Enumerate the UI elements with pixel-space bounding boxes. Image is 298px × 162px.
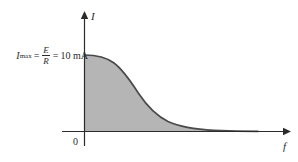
e-over-r-fraction: E R <box>42 46 50 66</box>
x-axis-arrowhead <box>283 128 291 135</box>
x-axis-label: f <box>283 140 288 152</box>
imax-subscript: max <box>20 53 32 60</box>
imax-value: 10 mA <box>61 51 89 61</box>
fraction-numerator-e: E <box>42 46 50 55</box>
curve-fill <box>85 55 259 132</box>
origin-label: 0 <box>73 136 78 147</box>
equals-sign-1: = <box>34 51 40 61</box>
imax-annotation: Imax = E R = 10 mA <box>12 46 88 66</box>
filter-response-figure: I f 0 <box>0 0 298 162</box>
fraction-denominator-r: R <box>42 57 50 66</box>
equals-sign-2: = <box>53 51 59 61</box>
y-axis-label: I <box>90 10 96 22</box>
y-axis-arrowhead <box>81 11 88 19</box>
